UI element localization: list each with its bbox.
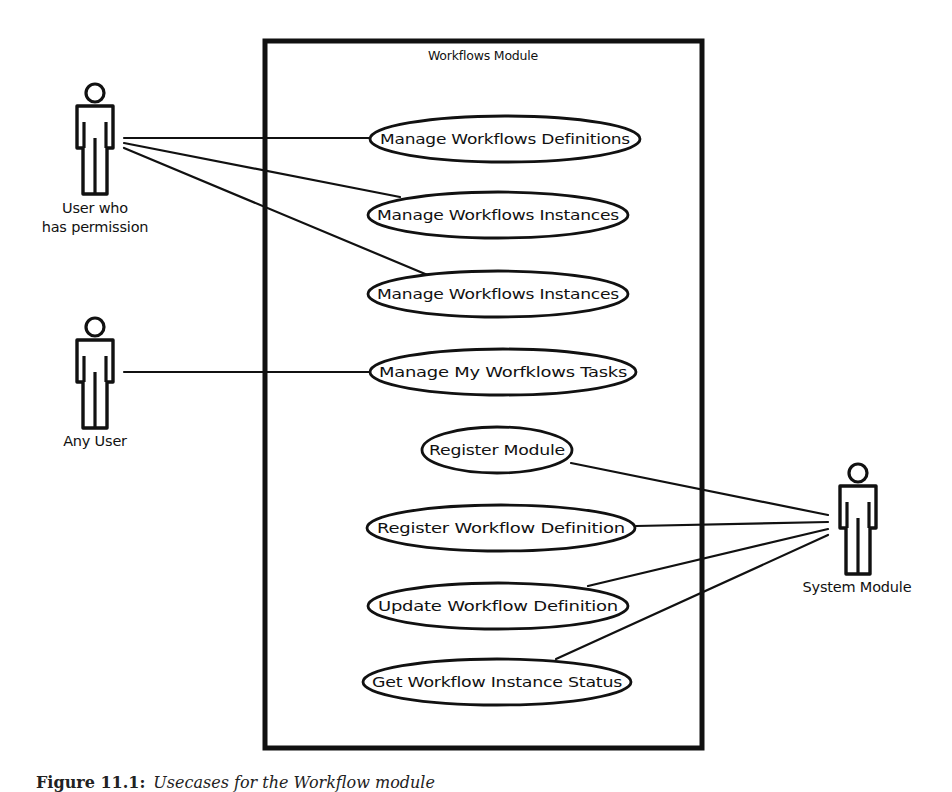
use-case-uc4[interactable]: Manage My Worfklows Tasks — [370, 349, 636, 395]
actor-system-module[interactable]: System Module — [803, 464, 912, 595]
use-case-label: Update Workflow Definition — [378, 598, 618, 614]
use-case-uc6[interactable]: Register Workflow Definition — [367, 505, 635, 551]
actor-any-user[interactable]: Any User — [63, 318, 127, 449]
use-case-uc1[interactable]: Manage Workflows Definitions — [370, 116, 640, 162]
actor-figure-icon — [840, 464, 876, 574]
use-case-label: Manage Workflows Instances — [377, 286, 619, 302]
use-case-uc7[interactable]: Update Workflow Definition — [368, 583, 628, 629]
actor-label-line1: Any User — [63, 433, 127, 449]
figure-caption: Figure 11.1:Usecases for the Workflow mo… — [36, 773, 435, 792]
actor-label-line1: User who — [62, 200, 128, 216]
actor-label-line2: has permission — [42, 219, 149, 235]
use-case-uc3[interactable]: Manage Workflows Instances — [368, 271, 628, 317]
use-case-uc8[interactable]: Get Workflow Instance Status — [363, 659, 631, 705]
use-case-label: Manage My Worfklows Tasks — [379, 364, 627, 380]
use-case-uc2[interactable]: Manage Workflows Instances — [368, 192, 628, 238]
actor-figure-icon — [77, 84, 113, 194]
actor-label-line1: System Module — [803, 579, 912, 595]
use-case-uc5[interactable]: Register Module — [422, 427, 572, 473]
figure-caption-text: Usecases for the Workflow module — [153, 773, 435, 792]
actor-user-with-permission[interactable]: User who has permission — [42, 84, 149, 235]
actor-figure-icon — [77, 318, 113, 428]
use-case-label: Manage Workflows Definitions — [380, 131, 630, 147]
figure-caption-label: Figure 11.1: — [36, 773, 145, 792]
system-boundary-title: Workflows Module — [428, 48, 539, 63]
use-case-label: Manage Workflows Instances — [377, 207, 619, 223]
use-case-label: Register Module — [429, 442, 565, 458]
association-a1-uc2 — [124, 143, 400, 197]
association-a3-uc6 — [636, 522, 828, 526]
use-case-label: Get Workflow Instance Status — [372, 674, 622, 690]
use-case-label: Register Workflow Definition — [377, 520, 625, 536]
